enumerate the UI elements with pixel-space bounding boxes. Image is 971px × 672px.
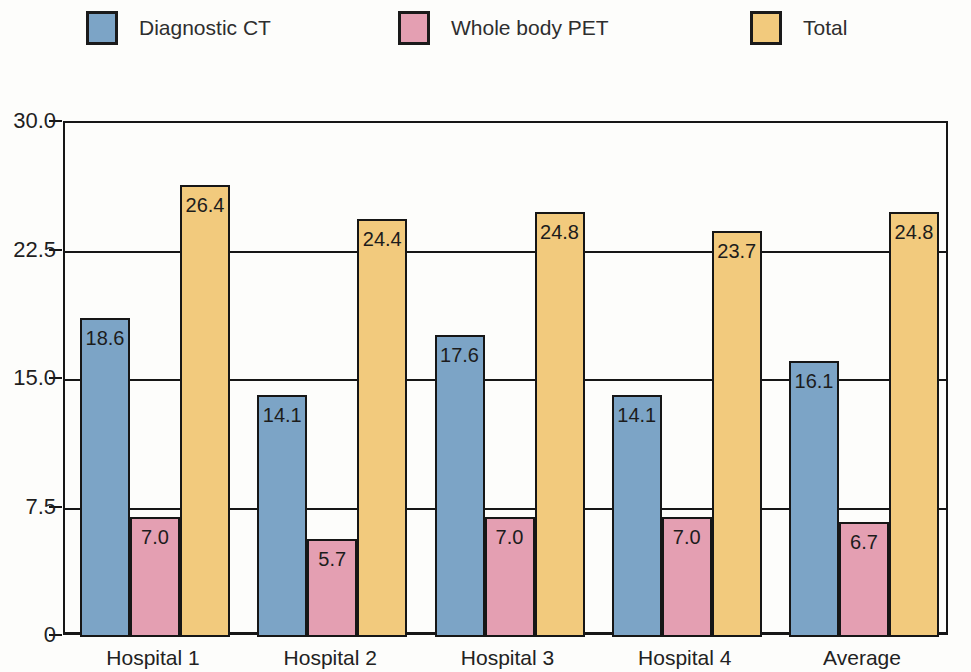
x-axis-label-hospital-3: Hospital 3 xyxy=(423,646,593,670)
y-axis-label-0: 0 xyxy=(0,622,56,648)
legend-swatch-diagnostic-ct-icon xyxy=(86,11,118,45)
y-axis-label-30.0: 30.0 xyxy=(0,108,56,134)
bar-diagnostic-ct-average xyxy=(789,361,839,637)
bar-diagnostic-ct-hospital-1 xyxy=(80,318,130,637)
bar-value-total-hospital-4: 23.7 xyxy=(712,240,762,263)
bar-diagnostic-ct-hospital-4 xyxy=(612,395,662,637)
legend-item-total: Total xyxy=(750,11,847,45)
bar-value-whole-body-pet-hospital-1: 7.0 xyxy=(130,526,180,549)
x-axis-label-hospital-4: Hospital 4 xyxy=(600,646,770,670)
bar-value-diagnostic-ct-hospital-1: 18.6 xyxy=(80,327,130,350)
x-axis-label-hospital-1: Hospital 1 xyxy=(68,646,238,670)
bar-value-total-hospital-2: 24.4 xyxy=(357,228,407,251)
x-axis-label-average: Average xyxy=(777,646,947,670)
bar-value-whole-body-pet-hospital-4: 7.0 xyxy=(662,526,712,549)
y-axis-label-15.0: 15.0 xyxy=(0,365,56,391)
bar-total-hospital-4 xyxy=(712,231,762,637)
legend-swatch-total-icon xyxy=(750,11,782,45)
bar-total-average xyxy=(889,212,939,637)
bar-chart-figure: Diagnostic CT Whole body PET Total 18.67… xyxy=(0,0,971,672)
bar-total-hospital-1 xyxy=(180,185,230,637)
legend-label-total: Total xyxy=(803,16,847,40)
bar-value-total-hospital-1: 26.4 xyxy=(180,194,230,217)
bar-value-total-hospital-3: 24.8 xyxy=(535,221,585,244)
legend-label-diagnostic-ct: Diagnostic CT xyxy=(139,16,271,40)
plot-area: 18.67.026.414.15.724.417.67.024.814.17.0… xyxy=(63,121,948,635)
x-axis-label-hospital-2: Hospital 2 xyxy=(245,646,415,670)
bar-total-hospital-2 xyxy=(357,219,407,637)
bar-diagnostic-ct-hospital-2 xyxy=(257,395,307,637)
bar-value-total-average: 24.8 xyxy=(889,221,939,244)
bar-value-diagnostic-ct-hospital-2: 14.1 xyxy=(257,404,307,427)
bar-total-hospital-3 xyxy=(535,212,585,637)
legend-item-whole-body-pet: Whole body PET xyxy=(398,11,609,45)
bar-value-whole-body-pet-average: 6.7 xyxy=(839,531,889,554)
bar-value-diagnostic-ct-hospital-4: 14.1 xyxy=(612,404,662,427)
bar-value-whole-body-pet-hospital-2: 5.7 xyxy=(307,548,357,571)
bar-value-diagnostic-ct-average: 16.1 xyxy=(789,370,839,393)
y-axis-label-22.5: 22.5 xyxy=(0,237,56,263)
legend-item-diagnostic-ct: Diagnostic CT xyxy=(86,11,271,45)
legend-label-whole-body-pet: Whole body PET xyxy=(451,16,609,40)
legend-swatch-whole-body-pet-icon xyxy=(398,11,430,45)
bar-value-diagnostic-ct-hospital-3: 17.6 xyxy=(435,344,485,367)
bar-value-whole-body-pet-hospital-3: 7.0 xyxy=(485,526,535,549)
y-axis-label-7.5: 7.5 xyxy=(0,494,56,520)
bar-diagnostic-ct-hospital-3 xyxy=(435,335,485,637)
